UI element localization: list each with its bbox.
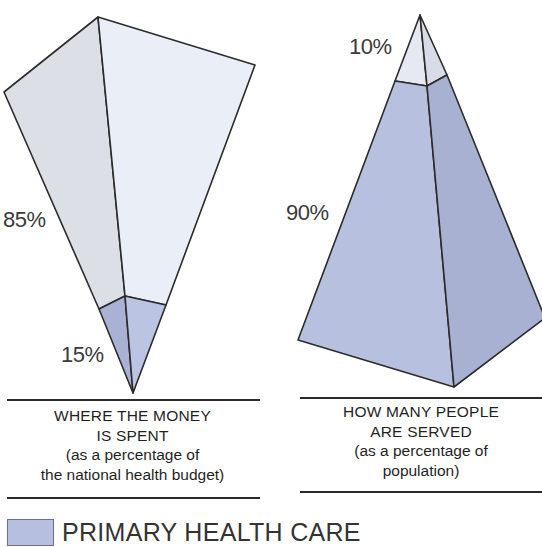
legend-label: PRIMARY HEALTH CARE xyxy=(62,518,361,547)
left-caption-title-1: WHERE THE MONEY xyxy=(0,406,265,426)
left-caption-top-rule xyxy=(7,399,260,401)
left-caption-title-2: IS SPENT xyxy=(0,426,265,446)
left-pyramid-other-right-face xyxy=(98,17,255,305)
left-label-85: 85% xyxy=(3,207,46,233)
right-label-10: 10% xyxy=(349,34,392,60)
right-caption-sub-1: (as a percentage of xyxy=(292,441,542,461)
right-caption-sub-2: population) xyxy=(292,461,542,481)
right-label-90: 90% xyxy=(286,200,329,226)
legend-swatch-primary-health-care xyxy=(7,519,54,546)
left-caption-sub-2: the national health budget) xyxy=(0,465,265,485)
left-pyramid-primary-right-face xyxy=(125,296,166,393)
right-caption-title-1: HOW MANY PEOPLE xyxy=(292,402,542,422)
right-caption-bottom-rule xyxy=(300,491,542,493)
legend: PRIMARY HEALTH CARE xyxy=(7,518,361,547)
left-inverted-pyramid xyxy=(4,17,255,393)
left-caption: WHERE THE MONEY IS SPENT (as a percentag… xyxy=(0,406,265,484)
right-caption: HOW MANY PEOPLE ARE SERVED (as a percent… xyxy=(292,402,542,480)
left-caption-sub-1: (as a percentage of xyxy=(0,445,265,465)
right-upright-pyramid xyxy=(298,15,542,387)
right-caption-top-rule xyxy=(300,397,542,399)
right-caption-title-2: ARE SERVED xyxy=(292,422,542,442)
left-label-15: 15% xyxy=(61,342,104,368)
left-caption-bottom-rule xyxy=(7,497,260,499)
